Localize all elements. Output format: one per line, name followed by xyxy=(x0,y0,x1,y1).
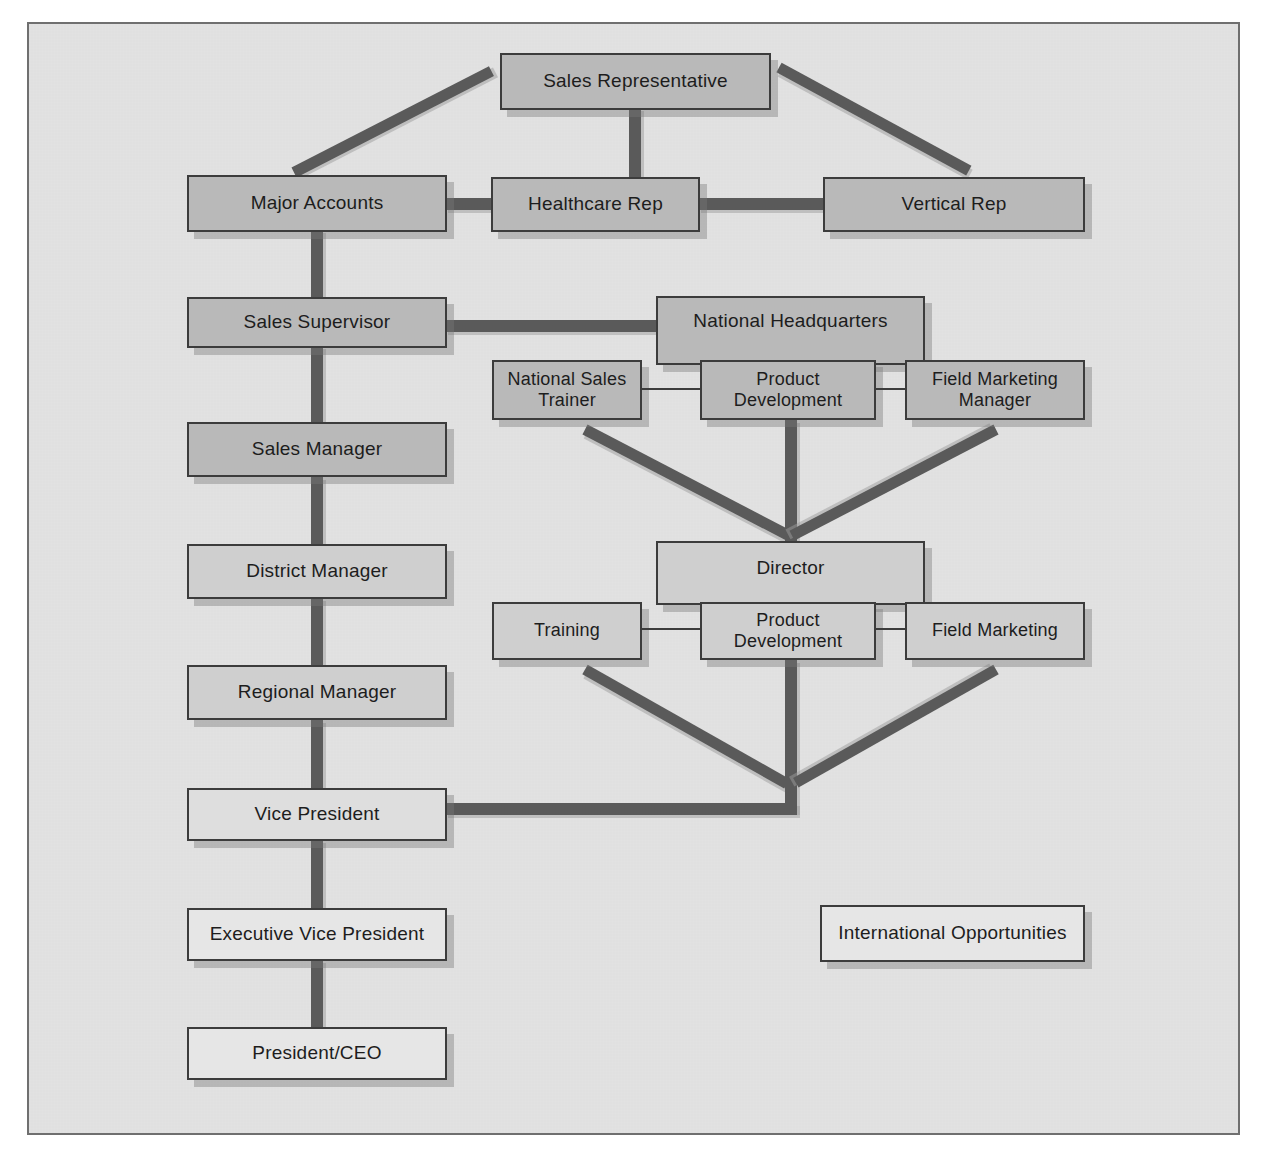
node-field-marketing[interactable]: Field Marketing xyxy=(905,602,1085,660)
node-field-marketing-manager[interactable]: Field Marketing Manager xyxy=(905,360,1085,420)
node-label: Field Marketing xyxy=(926,620,1064,641)
node-label: Executive Vice President xyxy=(204,923,431,945)
connector-sales-supervisor-to-national-headquarters xyxy=(445,320,663,332)
connector-sales-supervisor-to-sales-manager xyxy=(311,346,323,424)
node-label: Sales Supervisor xyxy=(238,311,397,333)
connector-sales-manager-to-district-manager xyxy=(311,477,323,545)
connector-national-sales-trainer-to-hq-product-development xyxy=(640,388,702,390)
node-label: Field Marketing Manager xyxy=(907,369,1083,411)
node-national-sales-trainer[interactable]: National Sales Trainer xyxy=(492,360,642,420)
connector-hq-product-development-to-director xyxy=(785,420,797,545)
node-label: Regional Manager xyxy=(232,681,402,703)
node-label: National Headquarters xyxy=(687,310,893,332)
node-label: President/CEO xyxy=(246,1042,387,1064)
node-regional-manager[interactable]: Regional Manager xyxy=(187,665,447,720)
node-label: Major Accounts xyxy=(245,192,390,214)
connector-dir-product-development-to-field-marketing xyxy=(874,628,907,630)
node-label: Training xyxy=(528,620,606,641)
node-label: Product Development xyxy=(702,610,874,652)
node-major-accounts[interactable]: Major Accounts xyxy=(187,175,447,232)
node-hq-product-development[interactable]: Product Development xyxy=(700,360,876,420)
node-sales-manager[interactable]: Sales Manager xyxy=(187,422,447,477)
connector-healthcare-rep-to-vertical-rep xyxy=(698,198,826,210)
node-label: Healthcare Rep xyxy=(522,193,669,215)
node-sales-representative[interactable]: Sales Representative xyxy=(500,53,771,110)
node-dir-product-development[interactable]: Product Development xyxy=(700,602,876,660)
node-international-opportunities[interactable]: International Opportunities xyxy=(820,905,1085,962)
connector-district-manager-to-regional-manager xyxy=(311,598,323,666)
node-label: Director xyxy=(750,557,830,579)
node-healthcare-rep[interactable]: Healthcare Rep xyxy=(491,177,700,232)
node-district-manager[interactable]: District Manager xyxy=(187,544,447,599)
connector-training-to-dir-product-development xyxy=(640,628,702,630)
node-training[interactable]: Training xyxy=(492,602,642,660)
connector-dir-product-development-to-vice-president xyxy=(785,660,797,812)
node-vice-president[interactable]: Vice President xyxy=(187,788,447,841)
connector-sales-rep-to-healthcare-rep xyxy=(629,108,641,180)
node-executive-vice-president[interactable]: Executive Vice President xyxy=(187,908,447,961)
node-label: Vice President xyxy=(249,803,386,825)
connector-vice-president-to-director-branch xyxy=(445,803,797,815)
org-chart-page: Sales Representative Major Accounts Heal… xyxy=(0,0,1264,1158)
node-label: Product Development xyxy=(702,369,874,411)
connector-hq-product-development-to-field-marketing-manager xyxy=(874,388,907,390)
node-label: Sales Representative xyxy=(537,70,734,92)
node-sales-supervisor[interactable]: Sales Supervisor xyxy=(187,297,447,348)
node-label: Sales Manager xyxy=(246,438,388,460)
connector-regional-manager-to-vice-president xyxy=(311,720,323,792)
connector-executive-vice-president-to-president-ceo xyxy=(311,960,323,1028)
connector-major-accounts-to-sales-supervisor xyxy=(311,230,323,302)
node-label: District Manager xyxy=(240,560,394,582)
node-label: National Sales Trainer xyxy=(494,369,640,411)
node-vertical-rep[interactable]: Vertical Rep xyxy=(823,177,1085,232)
node-president-ceo[interactable]: President/CEO xyxy=(187,1027,447,1080)
connector-major-accounts-to-healthcare-rep xyxy=(445,198,493,210)
connector-vice-president-to-executive-vice-president xyxy=(311,840,323,912)
node-label: International Opportunities xyxy=(832,922,1072,944)
node-director[interactable]: Director xyxy=(656,541,925,605)
node-national-headquarters[interactable]: National Headquarters xyxy=(656,296,925,365)
node-label: Vertical Rep xyxy=(896,193,1013,215)
